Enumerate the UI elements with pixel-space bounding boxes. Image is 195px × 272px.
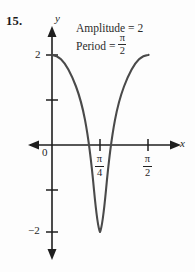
- x-tick-2-denominator: 2: [145, 168, 150, 179]
- x-tick-2-numerator: π: [145, 154, 150, 165]
- y-axis-label: y: [55, 12, 60, 24]
- y-axis-arrow-down: [48, 249, 57, 260]
- x-axis-arrow-left: [28, 141, 39, 150]
- y-tick-label-2: 2: [35, 48, 41, 60]
- x-axis-label: x: [180, 137, 185, 149]
- x-tick-1-numerator: π: [97, 154, 102, 165]
- y-tick-label-minus-2: −2: [28, 224, 40, 236]
- figure-container: 15. Amplitude = 2 Period = π 2: [0, 0, 195, 272]
- x-tick-label-pi-over-2: π 2: [143, 154, 152, 178]
- x-tick-1-denominator: 4: [97, 168, 102, 179]
- origin-label: 0: [42, 146, 48, 158]
- x-tick-label-pi-over-4: π 4: [95, 154, 104, 178]
- y-axis-arrow-up: [48, 26, 57, 37]
